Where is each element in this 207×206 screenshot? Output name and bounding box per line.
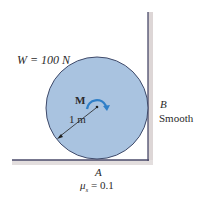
floor-shadow	[12, 160, 153, 165]
friction-value: = 0.1	[88, 179, 113, 191]
wall-condition-label: Smooth	[159, 112, 193, 124]
diagram-canvas	[0, 0, 207, 206]
point-a-label: A	[95, 166, 102, 178]
moment-label: M	[75, 94, 85, 106]
radius-label: 1 m	[69, 113, 86, 125]
weight-label: W = 100 N	[17, 53, 70, 68]
center-point	[96, 106, 99, 109]
wall-shadow	[148, 12, 153, 165]
point-b-label: B	[160, 98, 167, 110]
friction-label: μs = 0.1	[80, 179, 114, 194]
